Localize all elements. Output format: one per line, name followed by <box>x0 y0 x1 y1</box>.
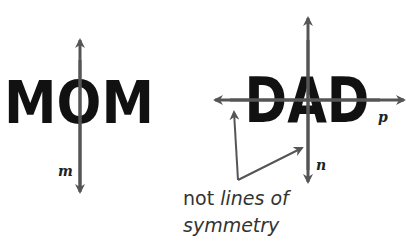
arrow-to-p <box>234 112 238 180</box>
mom-figure: MOM m <box>4 40 154 192</box>
label-m: m <box>58 163 73 179</box>
label-n: n <box>316 157 326 173</box>
label-p: p <box>378 109 388 125</box>
annotation-line-2: symmetry <box>183 214 280 236</box>
dad-figure: DAD p n <box>215 18 404 182</box>
annotation-line-1: not lines of <box>183 187 292 209</box>
symmetry-diagram: MOM m DAD p n not lines of symmetry <box>0 0 406 245</box>
arrow-to-n <box>238 148 302 180</box>
